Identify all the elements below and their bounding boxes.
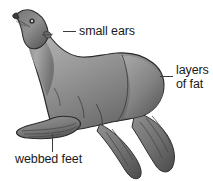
leader-line-webbed-feet: [52, 134, 53, 152]
callout-line-of-fat: of fat: [176, 77, 203, 91]
eye: [29, 18, 34, 23]
leader-line-layers-of-fat: [160, 76, 173, 77]
front-flipper-webbed-foot: [16, 116, 80, 138]
sea-lion-diagram: small ears layersof fat webbed feet: [0, 0, 213, 181]
rear-flipper-near: [97, 124, 141, 179]
callout-label-layers-of-fat: layersof fat: [176, 64, 213, 91]
callout-label-webbed-feet: webbed feet: [15, 153, 82, 167]
leader-line-small-ears: [63, 31, 76, 32]
callout-label-small-ears: small ears: [79, 25, 135, 39]
callout-line-layers: layers: [176, 63, 209, 77]
